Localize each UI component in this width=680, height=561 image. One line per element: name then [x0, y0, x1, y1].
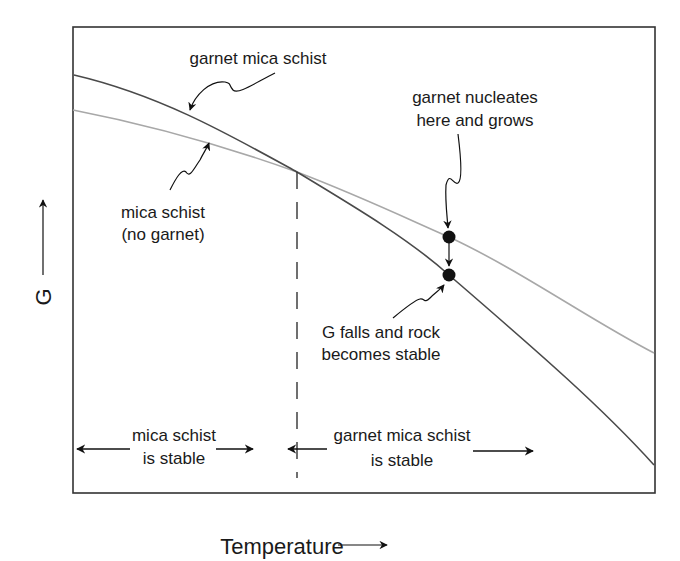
- label-garnet-mica-schist: garnet mica schist: [190, 49, 327, 68]
- plot-frame: [73, 27, 655, 493]
- nucleation-point: [443, 231, 456, 244]
- y-axis-label: G: [31, 288, 56, 305]
- label-g-falls-line2: becomes stable: [321, 345, 440, 364]
- label-mica-schist-line1: mica schist: [121, 203, 205, 222]
- label-nucleation-line1: garnet nucleates: [412, 88, 538, 107]
- leader-arrow-garnet-curve: [190, 73, 275, 110]
- leader-arrow-nucleation: [446, 134, 461, 228]
- label-right-region-line1: garnet mica schist: [334, 426, 471, 445]
- x-axis-label: Temperature: [220, 534, 344, 559]
- label-right-region-line2: is stable: [371, 451, 433, 470]
- leader-arrow-mica-curve: [170, 143, 209, 190]
- gibbs-energy-diagram: garnet mica schist mica schist (no garne…: [0, 0, 680, 561]
- label-nucleation-line2: here and grows: [416, 111, 533, 130]
- label-g-falls-line1: G falls and rock: [322, 323, 441, 342]
- leader-arrow-g-falls: [393, 285, 444, 318]
- label-left-region-line1: mica schist: [132, 426, 216, 445]
- stable-point: [443, 269, 456, 282]
- label-left-region-line2: is stable: [143, 449, 205, 468]
- label-mica-schist-line2: (no garnet): [121, 225, 204, 244]
- garnet-mica-schist-curve: [74, 75, 654, 465]
